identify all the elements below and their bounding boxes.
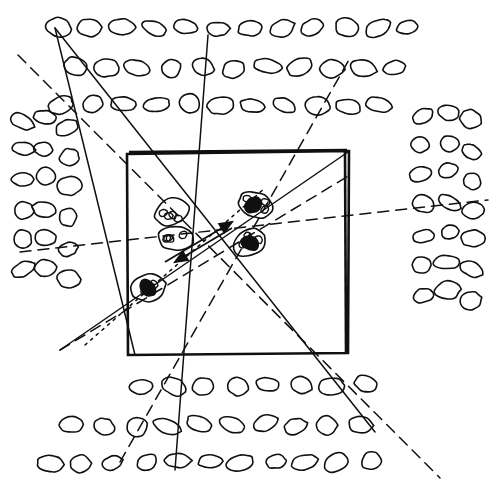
diagram-canvas	[0, 0, 498, 497]
hand-drawn-diagram	[0, 0, 498, 497]
